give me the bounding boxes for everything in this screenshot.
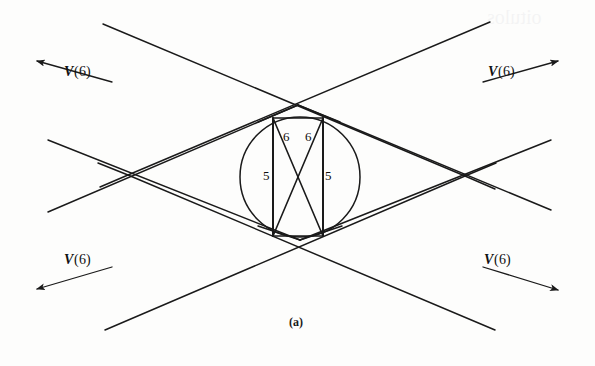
figure-caption: (a) [289, 315, 303, 330]
tangent-line-lower-right-to-left-node [128, 175, 495, 330]
tangent-line-upper-left-to-right-node [103, 24, 465, 176]
arrow-label-bottom-right-arg: (6) [494, 252, 511, 267]
tangent-line-lower-left-to-right-node [105, 176, 465, 330]
edge-label-left-five: 5 [263, 168, 270, 184]
tangent-line-right-node-extension-upper [465, 163, 496, 176]
arrow-label-bottom-left: V(6) [64, 252, 91, 268]
arrow-label-top-right-arg: (6) [498, 64, 515, 79]
arrow-label-bottom-right-symbol: V [484, 252, 494, 267]
arrow-label-bottom-left-arg: (6) [74, 252, 91, 267]
figure-container: oitulos [0, 0, 595, 366]
arrow-label-top-right: V(6) [488, 64, 515, 80]
tangent-line-left-node-extension-upper [98, 163, 128, 175]
tangent-line-right-node-extension [465, 176, 495, 189]
tangent-segment-right-upper-to-bottom-apex [300, 140, 551, 240]
arrow-label-top-left-arg: (6) [74, 64, 91, 79]
arrow-label-top-left-symbol: V [64, 64, 74, 79]
tangent-segment-top-apex-left-stub [258, 105, 298, 122]
central-circle [240, 117, 360, 237]
arrow-label-bottom-right: V(6) [484, 252, 511, 268]
direction-arrow-bottom-left [37, 267, 112, 289]
edge-label-top-right-six: 6 [305, 129, 312, 145]
edge-label-right-five: 5 [325, 168, 332, 184]
arrow-label-bottom-left-symbol: V [64, 252, 74, 267]
tangent-segment-right-lower-to-top-apex [298, 105, 551, 210]
edge-label-top-left-six: 6 [283, 129, 290, 145]
arrow-label-top-right-symbol: V [488, 64, 498, 79]
figure-diagram [0, 0, 595, 366]
tangent-line-left-node-extension [100, 175, 128, 187]
arrow-label-top-left: V(6) [64, 64, 91, 80]
direction-arrow-bottom-right [483, 267, 558, 290]
